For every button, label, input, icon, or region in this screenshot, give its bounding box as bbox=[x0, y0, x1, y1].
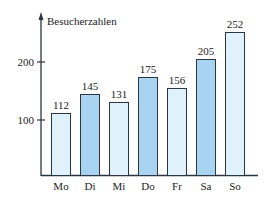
x-label-sa: Sa bbox=[191, 181, 221, 192]
bar-fr bbox=[167, 88, 187, 176]
value-label-mo: 112 bbox=[46, 100, 76, 111]
x-label-so: So bbox=[220, 181, 250, 192]
y-tick-200: 200 bbox=[4, 57, 34, 68]
bar-sa bbox=[196, 59, 216, 176]
bar-chart: Besucherzahlen 200 100 112Mo145Di131Mi17… bbox=[0, 0, 268, 211]
bar-mi bbox=[109, 102, 129, 176]
bar-so bbox=[225, 32, 245, 176]
value-label-fr: 156 bbox=[162, 75, 192, 86]
bar-mo bbox=[51, 113, 71, 176]
x-label-do: Do bbox=[133, 181, 163, 192]
bar-di bbox=[80, 94, 100, 176]
y-axis-arrow-icon bbox=[39, 12, 44, 20]
x-label-fr: Fr bbox=[162, 181, 192, 192]
value-label-mi: 131 bbox=[104, 89, 134, 100]
y-tick-100: 100 bbox=[4, 115, 34, 126]
x-label-di: Di bbox=[75, 181, 105, 192]
value-label-so: 252 bbox=[220, 19, 250, 30]
value-label-do: 175 bbox=[133, 64, 163, 75]
value-label-sa: 205 bbox=[191, 46, 221, 57]
x-label-mi: Mi bbox=[104, 181, 134, 192]
bar-do bbox=[138, 77, 158, 177]
x-label-mo: Mo bbox=[46, 181, 76, 192]
y-axis-label: Besucherzahlen bbox=[47, 16, 117, 27]
value-label-di: 145 bbox=[75, 81, 105, 92]
